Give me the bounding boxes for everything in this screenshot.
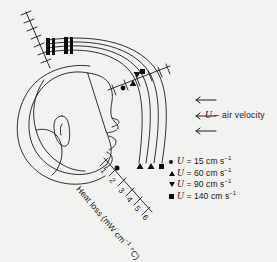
marker-square [140,69,145,74]
ear-outline [54,116,70,146]
marker-square [159,164,164,169]
legend-item-u90: U = 90 cm s−1 [168,179,276,191]
curve-u90 [48,42,158,163]
head-inner-line [34,80,85,175]
legend-label-u15: U = 15 cm s−1 [177,156,231,168]
legend-label-u140: U = 140 cm s−1 [177,191,236,203]
air-velocity-label: U – air velocity [205,110,265,120]
legend-item-u60: U = 60 cm s−1 [168,168,276,180]
triangle-down-marker-icon [168,179,177,191]
legend-item-u15: U = 15 cm s−1 [168,156,276,168]
legend-item-u140: U = 140 cm s−1 [168,191,276,203]
circle-marker-icon [168,156,177,168]
curve-u60 [48,46,150,163]
marker-circle [121,86,126,91]
marker-circle [115,166,120,171]
marker-triangle-up [137,163,144,169]
markers-curve-ends [115,163,165,171]
marker-triangle-down [134,72,141,78]
heat-loss-curves [48,38,166,163]
velocity-text: – air velocity [212,110,265,120]
legend-label-u90: U = 90 cm s−1 [177,179,231,191]
velocity-symbol: U [205,110,212,120]
square-marker-icon [168,191,177,203]
legend: U = 15 cm s−1 U = 60 cm s−1 U = 90 cm s−… [168,156,276,202]
marker-triangle-down [148,163,155,169]
triangle-up-marker-icon [168,168,177,180]
